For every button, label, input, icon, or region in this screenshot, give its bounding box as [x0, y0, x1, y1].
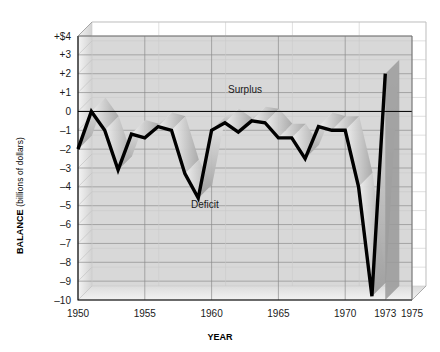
chart-container: BALANCE (billions of dollars) YEAR — [0, 0, 440, 352]
x-tick-label: 1955 — [134, 308, 157, 319]
y-tick-label: –1 — [60, 125, 72, 136]
y-tick-label: 0 — [65, 106, 71, 117]
y-tick-label: –8 — [60, 257, 72, 268]
y-tick-label: –7 — [60, 238, 72, 249]
y-tick-label: +1 — [60, 87, 72, 98]
y-tick-label: –5 — [60, 200, 72, 211]
y-tick-label: –3 — [60, 163, 72, 174]
x-axis-tick-labels: 1950195519601965197019731975 — [67, 308, 424, 319]
chart-svg: +$4+3+2+10–1–2–3–4–5–6–7–8–9–10 19501955… — [0, 0, 440, 352]
x-tick-label: 1965 — [267, 308, 290, 319]
y-tick-label: +$4 — [54, 31, 71, 42]
annotation-surplus: Surplus — [228, 84, 262, 95]
x-tick-label: 1960 — [200, 308, 223, 319]
x-tick-label: 1973 — [374, 308, 397, 319]
x-tick-label: 1970 — [334, 308, 357, 319]
y-tick-label: –6 — [60, 219, 72, 230]
y-tick-label: +2 — [60, 68, 72, 79]
y-tick-label: –2 — [60, 144, 72, 155]
y-axis-tick-labels: +$4+3+2+10–1–2–3–4–5–6–7–8–9–10 — [54, 31, 71, 306]
y-tick-label: –10 — [54, 295, 71, 306]
annotation-deficit: Deficit — [191, 199, 219, 210]
x-tick-label: 1975 — [401, 308, 424, 319]
y-tick-label: –9 — [60, 276, 72, 287]
x-tick-label: 1950 — [67, 308, 90, 319]
y-tick-label: +3 — [60, 49, 72, 60]
y-tick-label: –4 — [60, 181, 72, 192]
